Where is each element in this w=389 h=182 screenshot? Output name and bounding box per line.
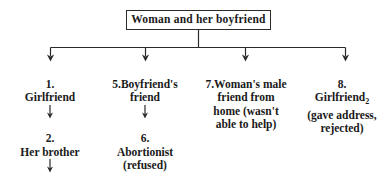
- node-6: 6. Abortionist (refused): [96, 119, 194, 182]
- node-8-number: 8.: [338, 78, 347, 90]
- branch-4-column: 8. Girlfriend2 (gave address, rejected): [296, 64, 388, 149]
- node-6-note: (refused): [96, 159, 194, 173]
- node-8-label: Girlfriend: [315, 91, 365, 103]
- node-3: 3. His friend: [2, 173, 98, 181]
- node-1-number: 1.: [46, 78, 55, 90]
- node-7-number: 7.: [205, 78, 214, 90]
- node-1-label: Girlfriend: [25, 91, 75, 103]
- branch-1-column: 1. Girlfriend 2. Her brother: [2, 64, 98, 181]
- node-2: 2. Her brother: [2, 119, 98, 160]
- branch-4-arrowhead: [342, 55, 349, 62]
- branch-1-arrowhead: [47, 55, 54, 62]
- branch-2-column: 5.Boyfriend's friend 6. Abortionist (ref…: [96, 64, 194, 181]
- flowchart-diagram: Woman and her boyfriend 1. Girlfriend 2.…: [0, 0, 389, 181]
- node-7: 7.Woman's male friend from home (wasn't …: [192, 64, 300, 132]
- node-8-subscript: 2: [365, 97, 369, 106]
- node-5-to-6-arrow-icon: [96, 105, 194, 119]
- node-1: 1. Girlfriend: [2, 64, 98, 105]
- branch-3-arrowhead: [242, 55, 249, 62]
- branch-3-column: 7.Woman's male friend from home (wasn't …: [192, 64, 300, 132]
- node-2-to-3-arrow-icon: [2, 159, 98, 173]
- node-6-number: 6.: [141, 132, 150, 144]
- root-node-box: Woman and her boyfriend: [126, 10, 271, 30]
- node-5: 5.Boyfriend's friend: [96, 64, 194, 105]
- node-1-to-2-arrow-icon: [2, 105, 98, 119]
- node-7-label: Woman's male friend from home (wasn't ab…: [213, 78, 286, 131]
- node-8-note: (gave address, rejected): [296, 109, 388, 136]
- node-6-label: Abortionist: [117, 146, 173, 158]
- node-5-number: 5.: [112, 78, 121, 90]
- node-8: 8. Girlfriend2 (gave address, rejected): [296, 64, 388, 149]
- node-2-number: 2.: [46, 132, 55, 144]
- node-5-label: Boyfriend's friend: [121, 78, 178, 104]
- node-2-label: Her brother: [20, 146, 79, 158]
- branch-2-arrowhead: [142, 55, 149, 62]
- root-node-label: Woman and her boyfriend: [131, 14, 265, 26]
